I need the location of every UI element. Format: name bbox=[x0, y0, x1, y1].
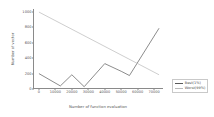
y-axis-tick-mark bbox=[32, 89, 34, 90]
y-axis-tick-mark bbox=[32, 73, 34, 74]
series-line bbox=[39, 12, 159, 75]
legend-item-label: Best(1%) bbox=[185, 82, 201, 86]
y-axis-title: Number of vector bbox=[11, 33, 15, 65]
y-axis-tick-mark bbox=[32, 12, 34, 13]
x-axis-tick-mark bbox=[121, 88, 122, 90]
legend-item-label: Worst(99%) bbox=[185, 87, 206, 91]
x-axis-tick-mark bbox=[154, 88, 155, 90]
y-axis-tick-mark bbox=[32, 58, 34, 59]
chart-legend: Best(1%)Worst(99%) bbox=[172, 79, 208, 93]
y-axis-tick-mark bbox=[32, 42, 34, 43]
y-axis-title-container: Number of vector bbox=[8, 9, 18, 89]
legend-color-swatch bbox=[175, 83, 183, 84]
x-axis-tick-mark bbox=[137, 88, 138, 90]
plot-area: 0200400600800100001000020000300004000050… bbox=[33, 9, 163, 89]
legend-color-swatch bbox=[175, 88, 183, 89]
x-axis-tick-mark bbox=[71, 88, 72, 90]
x-axis-tick-mark bbox=[104, 88, 105, 90]
x-axis-tick-mark bbox=[55, 88, 56, 90]
legend-item[interactable]: Worst(99%) bbox=[175, 86, 205, 91]
plot-lines bbox=[34, 9, 164, 89]
x-axis-tick-mark bbox=[38, 88, 39, 90]
series-line bbox=[39, 28, 159, 86]
chart-figure: Number of vector 02004006008001000010000… bbox=[0, 0, 214, 117]
y-axis-tick-mark bbox=[32, 27, 34, 28]
x-axis-tick-mark bbox=[88, 88, 89, 90]
x-axis-title: Number of function evaluation bbox=[33, 104, 163, 109]
